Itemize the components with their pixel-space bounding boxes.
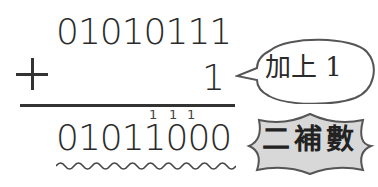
sum-rule-line xyxy=(20,104,235,107)
wavy-underline-icon xyxy=(56,160,236,170)
result-value: 01011000 xyxy=(56,120,231,156)
callout-add-one: 加上 1 xyxy=(265,54,342,80)
callout-twos-complement: 二補數 xyxy=(262,126,358,154)
operand-top: 01010111 xyxy=(56,14,231,50)
plus-sign-icon xyxy=(16,58,50,92)
operand-bottom: 1 xyxy=(202,60,224,96)
